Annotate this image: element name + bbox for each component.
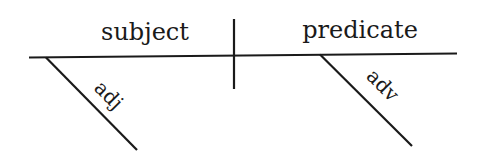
adjective-modifier-line [46,58,137,151]
baseline [29,54,457,58]
predicate-label: predicate [302,16,418,44]
adverb-label: adv [362,64,405,107]
adverb-modifier-line [320,55,412,147]
sentence-diagram: subject predicate adj adv [0,0,477,158]
subject-label: subject [101,18,189,46]
